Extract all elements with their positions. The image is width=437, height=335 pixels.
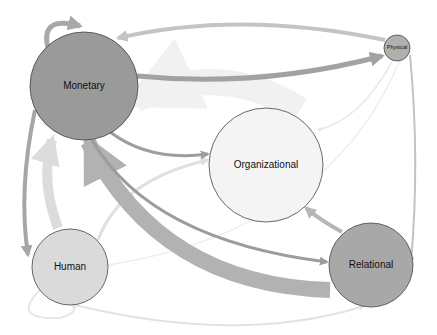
node-human: Human (32, 229, 108, 305)
node-physical: Physical (384, 35, 410, 61)
edge-monetary-to-human (24, 110, 35, 255)
node-label: Physical (387, 44, 407, 50)
edge-monetary-to-organizational (110, 132, 208, 156)
node-label: Relational (349, 259, 393, 270)
edge-human-to-monetary (47, 140, 58, 228)
network-diagram: MonetaryPhysicalOrganizationalHumanRelat… (0, 0, 437, 335)
edge-relational-to-organizational (306, 208, 342, 232)
node-relational: Relational (329, 223, 413, 307)
node-label: Monetary (63, 80, 105, 91)
edge-organizational-to-monetary (135, 82, 300, 110)
node-label: Organizational (234, 159, 298, 170)
edge-human-to-relational (75, 305, 364, 325)
edge-physical-to-organizational (318, 62, 392, 130)
node-label: Human (54, 261, 86, 272)
edge-physical-to-monetary (118, 24, 385, 40)
node-organizational: Organizational (209, 108, 323, 222)
edge-physical-to-relational (410, 55, 415, 262)
node-monetary: Monetary (30, 32, 138, 140)
